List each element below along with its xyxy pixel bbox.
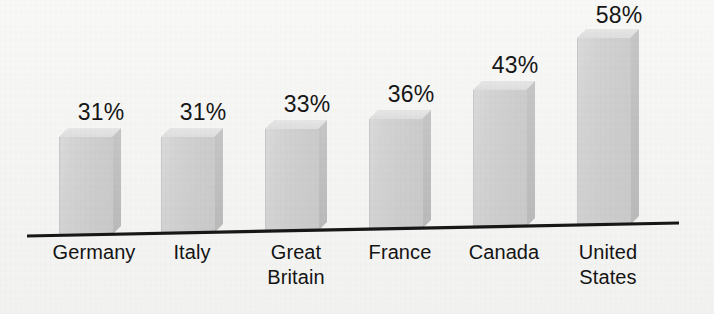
- plot-area: 31% Germany 31% Italy 33% Great Britain …: [0, 0, 714, 314]
- bar-chart: 31% Germany 31% Italy 33% Great Britain …: [0, 0, 714, 314]
- x-axis-baseline: [0, 0, 714, 314]
